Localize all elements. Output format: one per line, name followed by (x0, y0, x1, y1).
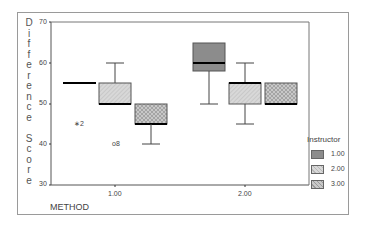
legend-title: Instructor (307, 135, 340, 144)
box-m2-i3 (265, 83, 297, 104)
plot-area (0, 0, 367, 226)
legend-label-2: 2.00 (331, 165, 345, 172)
legend-swatch-3 (311, 180, 324, 189)
outlier-label-8: o8 (112, 140, 120, 147)
legend-label-3: 3.00 (331, 180, 345, 187)
outlier-label-2: ∗2 (74, 120, 84, 128)
box-m2-i1 (193, 43, 225, 104)
box-m1-i3 (135, 104, 167, 144)
legend-swatch-2 (311, 165, 324, 174)
box-m2-i2 (229, 63, 261, 124)
legend-swatch-1 (311, 150, 324, 159)
box-m1-i2 (99, 63, 131, 104)
legend-label-1: 1.00 (331, 150, 345, 157)
